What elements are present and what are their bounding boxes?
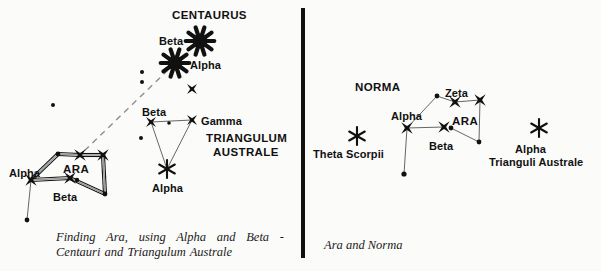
right-faint-dot-4	[401, 171, 406, 176]
tra-line-beta-alpha-stroke	[151, 122, 167, 169]
label-beta-trianguli: Beta	[142, 106, 166, 118]
label-alpha-trianguli: Alpha	[152, 182, 183, 194]
left-faint-dot-6	[56, 152, 61, 157]
tra-line-gamma-alpha	[167, 120, 192, 169]
ara-line-top-right	[80, 154, 103, 157]
left-faint-dot-8	[103, 192, 108, 197]
left-faint-dot-7	[75, 178, 79, 182]
left-star-beta-centauri	[186, 27, 215, 54]
left-star-alpha-trianguli	[159, 160, 175, 178]
right-faint-dot-3	[477, 140, 482, 145]
ara-line-zeta-upper	[455, 100, 480, 102]
left-caption-line-2: Centauri and Triangulum Australe	[56, 245, 284, 260]
label-alpha-centauri: Alpha	[190, 59, 221, 71]
tra-line-beta-alpha	[151, 122, 167, 169]
label-beta-arae: Beta	[53, 191, 77, 203]
label-beta-centauri: Beta	[159, 35, 183, 47]
right-star-alpha-trianguli-core	[537, 126, 540, 129]
tra-line-beta-gamma	[151, 120, 192, 122]
left-caption-line-1: Finding Ara, using Alpha and Beta -	[56, 230, 284, 245]
right-star-theta-scorpii-core	[355, 134, 358, 137]
right-panel-caption: Ara and Norma	[324, 238, 402, 253]
left-faint-dot-5	[139, 136, 143, 140]
label-beta-arae: Beta	[429, 140, 453, 152]
ara-line-alpha-tail-stroke	[27, 180, 31, 220]
label-zeta-arae: Zeta	[445, 87, 468, 99]
ara-line-beta-alpha-stroke	[407, 127, 444, 128]
label-gamma-trianguli: Gamma	[201, 115, 242, 127]
label-alpha-arae: Alpha	[9, 167, 40, 179]
constellation-title-norma: NORMA	[355, 81, 400, 93]
left-faint-dot-1	[140, 70, 144, 74]
ara-line-top-left-rail-0	[58, 156, 80, 157]
constellation-title-centaurus: CENTAURUS	[172, 9, 247, 21]
ara-line-upper-down	[479, 100, 480, 142]
ara-line-alpha-tail-stroke	[404, 128, 407, 174]
right-faint-dot-1	[435, 94, 440, 99]
label-trianguli-australe: Trianguli Australe	[489, 156, 583, 168]
ara-line-upper-down-stroke	[479, 100, 480, 142]
left-faint-dot-9	[25, 218, 30, 223]
ara-line-alpha-tail	[404, 128, 407, 174]
ara-line-alpha-tail	[27, 180, 31, 220]
left-star-centaurus-minor	[187, 84, 197, 94]
label-alpha-trianguli: Alpha	[515, 143, 546, 155]
ara-line-down-beta-stroke	[451, 128, 479, 142]
constellation-title-ara: ARA	[63, 163, 89, 175]
left-panel-caption: Finding Ara, using Alpha and Beta -Centa…	[56, 230, 284, 260]
star-chart-figure: CENTAURUSTRIANGULUMAUSTRALEARABetaAlphaB…	[0, 0, 601, 271]
tra-line-beta-gamma-stroke	[151, 120, 192, 122]
label-theta-scorpii: Theta Scorpii	[313, 148, 384, 160]
left-faint-dot-4	[167, 121, 171, 125]
left-star-alpha-trianguli-core	[165, 167, 168, 170]
right-star-alpha-trianguli	[531, 119, 547, 137]
constellation-title-ara: ARA	[452, 115, 478, 127]
tra-line-gamma-alpha-stroke	[167, 120, 192, 169]
ara-line-zeta-upper-stroke	[455, 100, 480, 102]
ara-line-right-down	[102, 155, 107, 194]
left-star-alpha-centauri	[161, 49, 190, 76]
constellation-title-australe: AUSTRALE	[213, 146, 279, 158]
constellation-title-triangulum: TRIANGULUM	[206, 132, 287, 144]
left-faint-dot-2	[140, 80, 144, 84]
ara-line-top-left-fill	[58, 154, 80, 155]
label-alpha-arae: Alpha	[391, 110, 422, 122]
left-star-centaurus-minor-glyph	[187, 84, 197, 94]
left-faint-dot-3	[51, 103, 55, 107]
ara-line-down-beta	[451, 128, 479, 142]
ara-line-beta-alpha	[407, 127, 444, 128]
right-star-theta-scorpii	[349, 127, 365, 145]
